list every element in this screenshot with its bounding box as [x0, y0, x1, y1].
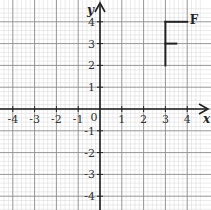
x-tick-label: -2 — [51, 113, 62, 126]
y-tick-label: 2 — [88, 59, 95, 72]
coordinate-grid: -4-3-2-112344321-1-2-3-4 x y 0 F — [0, 0, 211, 210]
x-tick-label: 4 — [184, 113, 191, 126]
x-tick-label: 3 — [162, 113, 169, 126]
minor-grid — [0, 0, 211, 210]
shape-label: F — [190, 13, 199, 27]
y-tick-label: -4 — [84, 190, 95, 203]
x-tick-label: 1 — [118, 113, 125, 126]
x-tick-label: -3 — [29, 113, 40, 126]
y-tick-label: -2 — [84, 147, 95, 160]
y-tick-label: 1 — [88, 81, 95, 94]
x-axis-label: x — [202, 112, 211, 126]
origin-label: 0 — [91, 111, 98, 124]
y-tick-label: 3 — [88, 38, 95, 51]
y-tick-label: -3 — [84, 168, 95, 181]
x-tick-label: -1 — [73, 113, 84, 126]
y-tick-label: -1 — [84, 125, 95, 138]
x-tick-label: -4 — [7, 113, 18, 126]
major-grid — [0, 0, 211, 210]
y-tick-label: 4 — [88, 16, 95, 29]
x-tick-label: 2 — [140, 113, 147, 126]
y-axis-label: y — [86, 3, 95, 17]
